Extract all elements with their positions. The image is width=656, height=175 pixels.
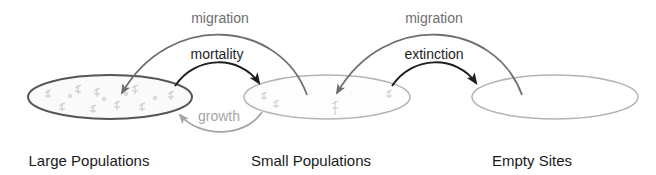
small-populations-label: Small Populations <box>251 152 371 169</box>
extinction-label: extinction <box>404 46 463 62</box>
large-populations-node <box>28 75 192 119</box>
large-populations-label: Large Populations <box>29 152 150 169</box>
small-populations-ellipse <box>244 75 410 119</box>
small-populations-node <box>244 75 410 119</box>
empty-sites-ellipse <box>472 75 638 119</box>
mortality-label: mortality <box>191 46 244 62</box>
metapopulation-diagram: migration mortality growth migration ext… <box>0 0 656 175</box>
migration-label-left: migration <box>191 10 249 26</box>
empty-sites-node <box>472 75 638 119</box>
extinction-arrow <box>392 62 476 86</box>
large-populations-ellipse <box>28 75 192 119</box>
empty-sites-label: Empty Sites <box>492 152 572 169</box>
migration-label-right: migration <box>405 10 463 26</box>
growth-label: growth <box>198 108 240 124</box>
mortality-arrow <box>175 62 259 86</box>
